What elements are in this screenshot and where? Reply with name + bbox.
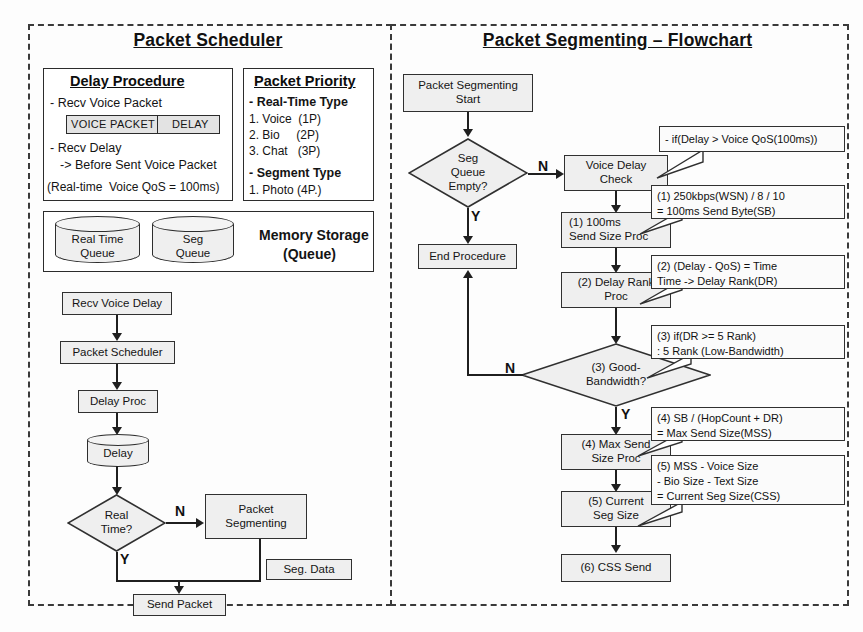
delay-store-cylinder: Delay [87,434,149,468]
note-4-line-1: = Max Send Size(MSS) [657,426,839,441]
memory-storage-title-line2: (Queue) [283,246,336,264]
segmenting-start-label-2: Start [456,93,480,107]
note-1-line-0: (1) 250kbps(WSN) / 8 / 10 [657,189,839,204]
note-5-line-1: - Bio Size - Text Size [657,474,839,489]
note-5-line-0: (5) MSS - Voice Size [657,459,839,474]
real-time-decision-label: RealTime? [67,494,166,552]
note-2: (2) (Delay - QoS) = Time Time -> Delay R… [651,255,845,289]
step1-label-2: Send Size Proc [569,230,648,244]
seg-queue-empty-label: SegQueueEmpty? [408,138,528,208]
seg-data-box: Seg. Data [266,559,352,580]
seg-queue-cylinder: Seg Queue [152,216,234,266]
real-time-decision: RealTime? [67,494,166,552]
step6-box: (6) CSS Send [561,554,671,582]
arrow-r7 [463,270,473,278]
seg-queue-label: Seg Queue [152,233,234,261]
note-if-delay: - if(Delay > Voice QoS(100ms)) [659,126,845,152]
packet-priority-group2: - Segment Type [249,166,341,182]
arrow-r1 [463,129,473,137]
packet-priority-group1: - Real-Time Type [249,95,348,111]
delay-label: DELAY [172,118,209,132]
step1-label-1: (1) 100ms [569,216,621,230]
delay-procedure-line4: (Real-time Voice QoS = 100ms) [47,180,219,195]
packet-segmenting-label-2: Segmenting [225,517,286,531]
real-time-branch-no: N [175,503,185,519]
packet-scheduler-box: Packet Scheduler [60,341,175,364]
seg-queue-branch-no: N [538,158,548,174]
real-time-queue-cylinder: Real Time Queue [55,216,140,266]
note-1-line-1: = 100ms Send Byte(SB) [657,204,839,219]
delay-procedure-line1: - Recv Voice Packet [50,96,162,112]
delay-store-label: Delay [87,447,149,461]
note-2-line-0: (2) (Delay - QoS) = Time [657,259,839,274]
note-5: (5) MSS - Voice Size - Bio Size - Text S… [651,455,845,505]
note-3-line-1: : 5 Rank (Low-Bandwidth) [657,344,839,359]
note-4: (4) SB / (HopCount + DR) = Max Send Size… [651,407,845,441]
real-time-queue-label: Real Time Queue [55,233,140,261]
good-bandwidth-branch-yes: Y [621,406,630,422]
connector-r8 [467,278,469,376]
step4-label-2: Size Proc [591,452,640,466]
connector-l5 [166,522,199,524]
memory-storage-title-line1: Memory Storage [259,227,369,245]
real-time-branch-yes: Y [120,551,129,567]
arrow-r10 [611,545,621,553]
connector-l6 [116,552,118,582]
voice-delay-check-label-2: Check [600,173,633,187]
connector-l8 [259,539,261,581]
packet-segmenting-box: Packet Segmenting [205,494,307,539]
voice-delay-check-label-1: Voice Delay [586,159,647,173]
note-5-line-2: = Current Seg Size(CSS) [657,489,839,504]
delay-proc-box: Delay Proc [78,390,158,413]
packet-segmenting-label-1: Packet [238,503,273,517]
connector-r7 [467,374,523,376]
segmenting-start-label-1: Packet Segmenting [418,79,518,93]
note-if-delay-line-0: - if(Delay > Voice QoS(100ms)) [665,132,818,147]
diagram-canvas: Packet Scheduler Delay Procedure - Recv … [0,0,863,632]
voice-packet-label: VOICE PACKET [71,118,155,132]
connector-l7 [116,580,261,582]
arrow-l1 [112,333,122,341]
delay-procedure-heading: Delay Procedure [70,73,184,89]
right-panel-title: Packet Segmenting – Flowchart [390,30,845,51]
arrow-r2 [556,169,564,179]
connector-r6 [615,308,617,339]
end-procedure-box: End Procedure [418,244,517,269]
note-4-line-0: (4) SB / (HopCount + DR) [657,411,839,426]
delay-procedure-line3: -> Before Sent Voice Packet [60,158,217,174]
arrow-l6 [174,586,184,594]
delay-procedure-line2: - Recv Delay [50,141,122,157]
left-panel-title: Packet Scheduler [28,30,388,51]
note-3: (3) if(DR >= 5 Rank) : 5 Rank (Low-Bandw… [651,325,845,359]
arrow-l5 [196,518,204,528]
note-if-delay-pointer [655,148,705,180]
arrow-l2 [112,382,122,390]
seg-queue-empty-decision: SegQueueEmpty? [408,138,528,208]
packet-priority-item-1: 2. Bio (2P) [249,128,319,143]
step2-label-2: Proc [604,290,628,304]
packet-priority-item-0: 1. Voice (1P) [249,112,321,127]
note-1: (1) 250kbps(WSN) / 8 / 10 = 100ms Send B… [651,185,845,219]
arrow-r3 [463,236,473,244]
packet-priority-heading: Packet Priority [254,73,356,89]
recv-voice-delay-box: Recv Voice Delay [62,292,172,315]
segmenting-start-box: Packet Segmenting Start [403,74,533,112]
packet-priority-item-2: 3. Chat (3P) [249,144,320,159]
note-3-line-0: (3) if(DR >= 5 Rank) [657,329,839,344]
send-packet-box: Send Packet [133,594,226,616]
packet-priority-item-3: 1. Photo (4P.) [249,183,322,198]
step5-label-2: Seg Size [593,509,639,523]
note-2-line-1: Time -> Delay Rank(DR) [657,274,839,289]
seg-queue-branch-yes: Y [471,208,480,224]
